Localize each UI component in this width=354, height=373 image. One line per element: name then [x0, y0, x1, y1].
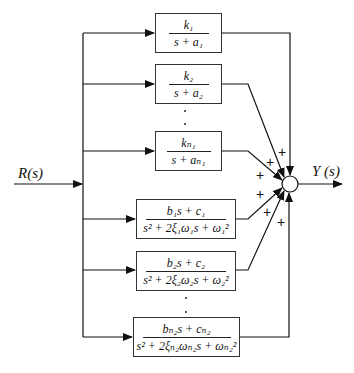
block-denominator: s + aₙ₁ — [172, 153, 206, 167]
block-numerator: b₁s + c₁ — [167, 204, 205, 218]
block-kn1: kₙ₁ s + aₙ₁ — [155, 131, 222, 171]
block-k1: k₁ s + a₁ — [155, 13, 222, 53]
block-k2: k₂ s + a₂ — [155, 64, 222, 104]
plus-sign: + — [266, 155, 274, 169]
block-numerator: bₙ₂s + cₙ₂ — [162, 322, 210, 336]
block-denominator: s + a₁ — [174, 35, 203, 49]
ellipsis-dot — [185, 311, 187, 313]
input-label: R(s) — [18, 165, 43, 182]
block-numerator: k₂ — [184, 69, 194, 83]
block-numerator: b₂s + c₂ — [167, 256, 205, 270]
plus-sign: + — [277, 215, 285, 229]
summing-junction — [282, 176, 298, 192]
block-numerator: k₁ — [184, 18, 194, 32]
block-numerator: kₙ₁ — [181, 136, 195, 150]
block-b1: b₁s + c₁ s² + 2ξ₁ω₁s + ω₁² — [136, 199, 236, 239]
ellipsis-dot — [184, 123, 186, 125]
block-denominator: s² + 2ξₙ₂ωₙ₂s + ωₙ₂² — [137, 339, 237, 353]
block-bn2: bₙ₂s + cₙ₂ s² + 2ξₙ₂ωₙ₂s + ωₙ₂² — [133, 317, 240, 357]
plus-sign: + — [278, 145, 286, 159]
block-denominator: s + a₂ — [174, 86, 203, 100]
plus-sign: + — [256, 168, 264, 182]
block-denominator: s² + 2ξ₂ω₂s + ω₂² — [143, 273, 228, 287]
block-denominator: s² + 2ξ₁ω₁s + ω₁² — [143, 221, 228, 235]
plus-sign: + — [263, 205, 271, 219]
block-b2: b₂s + c₂ s² + 2ξ₂ω₂s + ω₂² — [136, 251, 236, 291]
ellipsis-dot — [184, 110, 186, 112]
ellipsis-dot — [185, 297, 187, 299]
output-label: Y (s) — [312, 163, 340, 180]
plus-sign: + — [256, 187, 264, 201]
